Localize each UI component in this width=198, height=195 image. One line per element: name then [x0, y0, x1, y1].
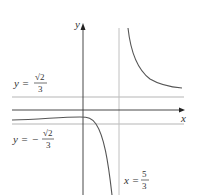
curve-left-branch	[12, 117, 112, 195]
vertical-asymptote-lhs: x =	[123, 174, 139, 186]
label-vertical-asymptote: x = 5 3	[123, 169, 149, 191]
function-graph: y x y = √2 3 y = − √2 3 x = 5 3	[0, 0, 198, 195]
curve-right-branch	[128, 28, 182, 88]
upper-asymptote-numerator: √2	[35, 72, 44, 82]
x-axis-label: x	[180, 112, 186, 124]
lower-asymptote-lhs: y =	[12, 133, 28, 145]
vertical-asymptote-numerator: 5	[142, 169, 147, 179]
vertical-asymptote-denominator: 3	[142, 181, 147, 191]
lower-asymptote-sign: −	[32, 133, 38, 145]
upper-asymptote-denominator: 3	[38, 84, 43, 94]
y-axis-arrow-icon	[81, 23, 86, 30]
y-axis-label: y	[74, 18, 80, 30]
label-lower-asymptote: y = − √2 3	[12, 128, 54, 150]
upper-asymptote-lhs: y =	[13, 77, 29, 89]
lower-asymptote-numerator: √2	[43, 128, 52, 138]
lower-asymptote-denominator: 3	[46, 140, 51, 150]
label-upper-asymptote: y = √2 3	[13, 72, 47, 94]
graph-canvas: y x y = √2 3 y = − √2 3 x = 5 3	[0, 0, 198, 195]
